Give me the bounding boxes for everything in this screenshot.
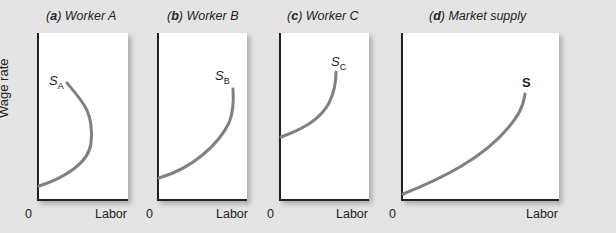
curve-label-sb: SB xyxy=(215,68,230,86)
origin-label: 0 xyxy=(267,207,274,221)
panel-worker-b: (b) Worker B SB 0 Labor xyxy=(140,0,260,233)
panel-title: (b) Worker B xyxy=(167,9,239,23)
origin-label: 0 xyxy=(146,207,153,221)
x-axis-label: Labor xyxy=(526,207,558,221)
panel-title: (d) Market supply xyxy=(429,9,526,23)
origin-label: 0 xyxy=(25,207,32,221)
x-axis-label: Labor xyxy=(216,207,248,221)
supply-curve-a xyxy=(39,33,128,199)
curve-label-s: S xyxy=(522,75,531,90)
curve-label-sa: SA xyxy=(49,73,64,91)
panel-market-supply: (d) Market supply S 0 Labor xyxy=(380,0,616,233)
supply-curve-market xyxy=(403,33,559,199)
x-axis-label: Labor xyxy=(336,207,368,221)
x-axis-label: Labor xyxy=(95,207,127,221)
supply-curve-b xyxy=(159,33,247,199)
panel-title: (a) Worker A xyxy=(46,9,116,23)
supply-curve-c xyxy=(281,33,369,199)
plot-area xyxy=(401,33,559,201)
curve-label-sc: SC xyxy=(331,54,346,72)
panel-worker-a: (a) Worker A SA 0 Labor xyxy=(0,0,150,233)
panel-worker-c: (c) Worker C SC 0 Labor xyxy=(260,0,380,233)
plot-area xyxy=(157,33,247,201)
plot-area xyxy=(37,33,128,201)
panel-title: (c) Worker C xyxy=(287,9,359,23)
plot-area xyxy=(279,33,369,201)
origin-label: 0 xyxy=(389,207,396,221)
